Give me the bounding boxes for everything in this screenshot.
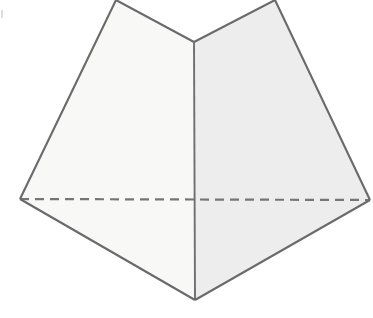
solid-figure-svg — [0, 0, 373, 318]
scan-speck — [1, 10, 3, 18]
edge-central-vertical — [194, 42, 195, 300]
figure-container — [0, 0, 373, 318]
